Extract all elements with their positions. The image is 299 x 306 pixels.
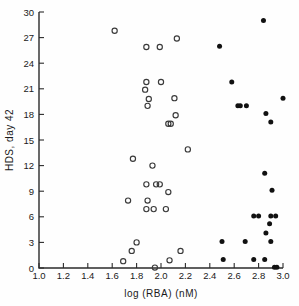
data-point-filled [251, 213, 256, 218]
data-point-filled [267, 221, 272, 226]
data-point-filled [243, 239, 248, 244]
axes [39, 12, 283, 268]
x-tick-label: 3.0 [276, 270, 289, 281]
data-point-filled [263, 231, 268, 236]
y-tick-label: 27 [23, 32, 34, 43]
data-point-open [151, 207, 156, 212]
y-tick-label: 18 [23, 109, 34, 120]
y-axis-ticks: 036912151821242730 [23, 7, 44, 274]
data-point-open [185, 147, 190, 152]
data-point-open [144, 182, 149, 187]
data-point-open [112, 28, 117, 33]
data-point-open [173, 113, 178, 118]
y-tick-label: 30 [23, 7, 34, 18]
data-point-open [166, 189, 171, 194]
data-point-filled [217, 44, 222, 49]
data-point-open [144, 207, 149, 212]
y-tick-label: 24 [23, 58, 34, 69]
data-point-open [150, 163, 155, 168]
y-tick-label: 0 [29, 263, 34, 274]
data-point-filled [262, 171, 267, 176]
x-tick-label: 2.8 [252, 270, 265, 281]
data-point-open [130, 156, 135, 161]
data-point-open [178, 248, 183, 253]
data-point-filled [274, 265, 279, 270]
data-points [112, 18, 285, 270]
data-point-open [158, 79, 163, 84]
data-point-open [157, 44, 162, 49]
x-tick-label: 1.6 [106, 270, 119, 281]
x-tick-label: 1.8 [130, 270, 143, 281]
x-tick-label: 2.0 [154, 270, 167, 281]
x-tick-label: 2.4 [203, 270, 216, 281]
data-point-filled [229, 79, 234, 84]
data-point-filled [238, 103, 243, 108]
x-tick-label: 1.0 [32, 270, 45, 281]
data-point-open [146, 96, 151, 101]
data-point-filled [261, 18, 266, 23]
x-tick-label: 2.6 [228, 270, 241, 281]
data-point-filled [281, 96, 286, 101]
y-axis-label: HDS, day 42 [4, 109, 15, 171]
y-tick-label: 6 [29, 211, 34, 222]
data-point-open [134, 240, 139, 245]
data-point-filled [263, 111, 268, 116]
data-point-filled [262, 257, 267, 262]
data-point-filled [251, 257, 256, 262]
data-point-open [172, 96, 177, 101]
x-axis-ticks: 1.01.21.41.61.82.02.22.42.62.83.0 [32, 263, 289, 281]
data-point-filled [220, 239, 225, 244]
x-axis-label: log (RBA) (nM) [124, 288, 198, 299]
data-point-open [125, 198, 130, 203]
y-tick-label: 12 [23, 160, 34, 171]
data-point-filled [273, 213, 278, 218]
y-tick-label: 21 [23, 83, 34, 94]
scatter-plot-figure: 1.01.21.41.61.82.02.22.42.62.83.0 036912… [0, 0, 299, 306]
plot-canvas: 1.01.21.41.61.82.02.22.42.62.83.0 036912… [0, 0, 299, 306]
data-point-open [157, 182, 162, 187]
x-tick-label: 2.2 [179, 270, 192, 281]
data-point-open [167, 258, 172, 263]
data-point-open [145, 198, 150, 203]
data-point-open [144, 44, 149, 49]
data-point-filled [268, 239, 273, 244]
y-tick-label: 3 [29, 237, 34, 248]
data-point-filled [221, 257, 226, 262]
data-point-filled [244, 103, 249, 108]
y-tick-label: 9 [29, 186, 34, 197]
data-point-filled [268, 213, 273, 218]
data-point-open [144, 79, 149, 84]
data-point-open [174, 36, 179, 41]
data-point-filled [268, 120, 273, 125]
data-point-open [163, 207, 168, 212]
data-point-open [143, 87, 148, 92]
data-point-open [129, 248, 134, 253]
axis-lines [39, 12, 283, 268]
data-point-open [145, 103, 150, 108]
y-tick-label: 15 [23, 135, 34, 146]
data-point-filled [270, 188, 275, 193]
data-point-filled [256, 213, 261, 218]
data-point-open [121, 259, 126, 264]
x-tick-label: 1.4 [81, 270, 94, 281]
x-tick-label: 1.2 [57, 270, 70, 281]
